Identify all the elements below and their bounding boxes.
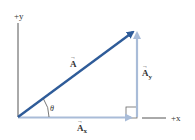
y-component-subscript: y [149,73,153,81]
right-angle-marker [126,107,137,118]
x-component-subscript: x [84,127,88,135]
resultant-label: A [70,59,77,69]
angle-label: θ [50,104,54,113]
resultant-vector [18,32,133,117]
x-axis-label: +x [171,113,181,123]
y-axis-label: +y [14,11,24,21]
vector-diagram: +y +x → A → A y θ → A x [0,0,195,140]
angle-arc [44,99,50,117]
